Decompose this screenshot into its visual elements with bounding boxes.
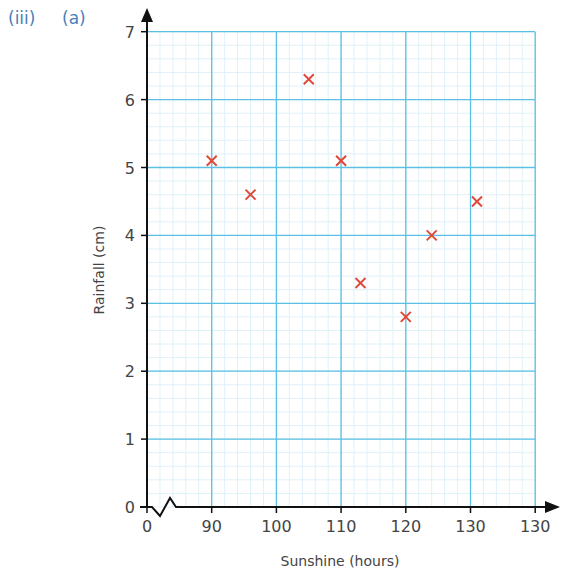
axes	[140, 8, 560, 516]
y-tick-label: 3	[125, 294, 135, 313]
x-axis-line-with-break	[140, 498, 545, 516]
x-axis-title: Sunshine (hours)	[281, 553, 400, 569]
x-tick-label: 90	[202, 517, 222, 536]
scatter-chart: 01234567 090100110120130130 Sunshine (ho…	[0, 0, 565, 580]
data-markers	[207, 74, 482, 322]
x-tick-label: 130	[520, 517, 551, 536]
x-marker-icon	[472, 196, 482, 206]
y-tick-label: 7	[125, 23, 135, 42]
x-tick-label: 130	[455, 517, 486, 536]
x-tick-labels: 090100110120130130	[142, 507, 551, 536]
y-tick-label: 0	[125, 498, 135, 517]
x-marker-icon	[356, 278, 366, 288]
y-tick-labels: 01234567	[125, 23, 147, 517]
major-grid	[147, 32, 535, 507]
y-tick-label: 1	[125, 430, 135, 449]
y-tick-label: 5	[125, 159, 135, 178]
y-axis-arrow-icon	[141, 8, 153, 22]
x-tick-label: 0	[142, 517, 152, 536]
x-marker-icon	[304, 74, 314, 84]
x-tick-label: 120	[391, 517, 422, 536]
x-tick-label: 110	[326, 517, 357, 536]
y-tick-label: 6	[125, 91, 135, 110]
y-tick-label: 2	[125, 362, 135, 381]
y-tick-label: 4	[125, 226, 135, 245]
x-tick-label: 100	[261, 517, 292, 536]
y-axis-title: Rainfall (cm)	[91, 226, 107, 315]
x-axis-arrow-icon	[545, 501, 560, 513]
